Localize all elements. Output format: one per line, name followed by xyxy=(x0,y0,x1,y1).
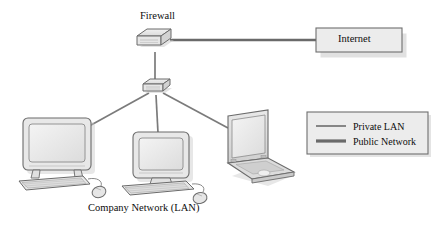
switch-node[interactable] xyxy=(143,79,172,93)
legend xyxy=(307,112,431,157)
diagram-canvas xyxy=(0,0,441,236)
workstation-right-laptop[interactable] xyxy=(228,110,294,186)
firewall-node[interactable] xyxy=(137,29,174,47)
workstation-center[interactable] xyxy=(122,132,208,205)
workstation-left[interactable] xyxy=(19,118,107,199)
network-diagram: Firewall Internet Private LAN Public Net… xyxy=(0,0,441,236)
link-switch-workstation-right xyxy=(163,93,228,128)
legend-label-private-lan: Private LAN xyxy=(353,122,404,132)
legend-label-public-network: Public Network xyxy=(353,137,416,147)
firewall-label: Firewall xyxy=(140,11,175,22)
diagram-caption: Company Network (LAN) xyxy=(88,203,199,214)
internet-label: Internet xyxy=(338,34,371,45)
link-switch-workstation-center xyxy=(156,95,158,133)
